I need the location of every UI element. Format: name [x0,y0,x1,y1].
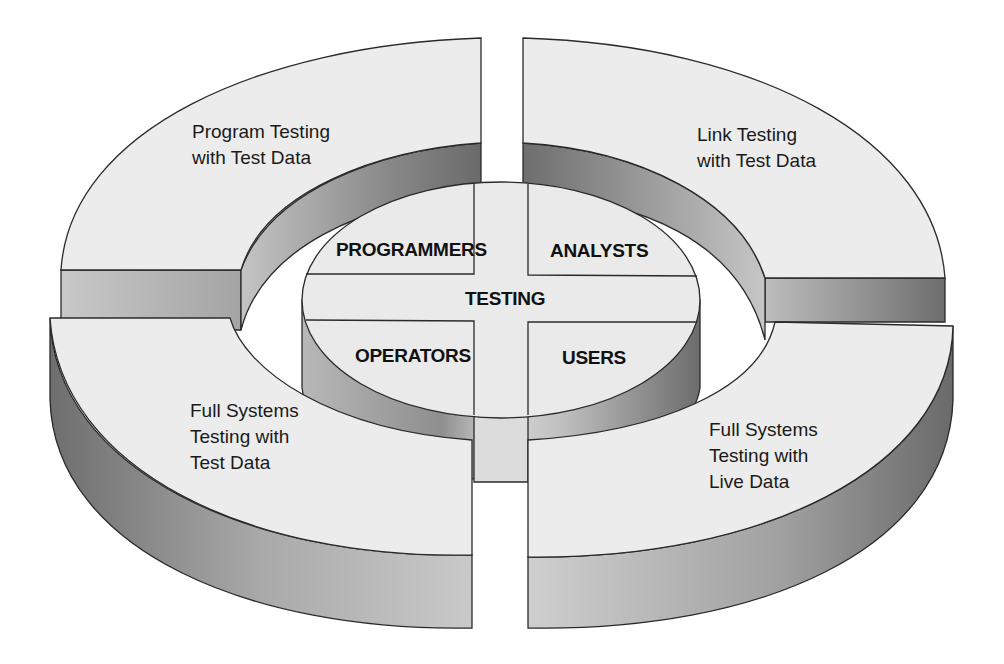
label-programmers: PROGRAMMERS [336,239,487,260]
testing-ring-diagram: Program Testing with Test Data Link Test… [0,0,1004,664]
label-users: USERS [562,347,626,368]
label-operators: OPERATORS [355,345,471,366]
label-analysts: ANALYSTS [550,240,648,261]
label-testing: TESTING [465,288,545,309]
